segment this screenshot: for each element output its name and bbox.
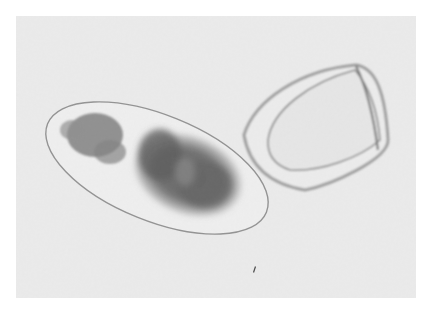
micrograph-svg	[0, 0, 430, 312]
film-grain	[16, 16, 416, 298]
